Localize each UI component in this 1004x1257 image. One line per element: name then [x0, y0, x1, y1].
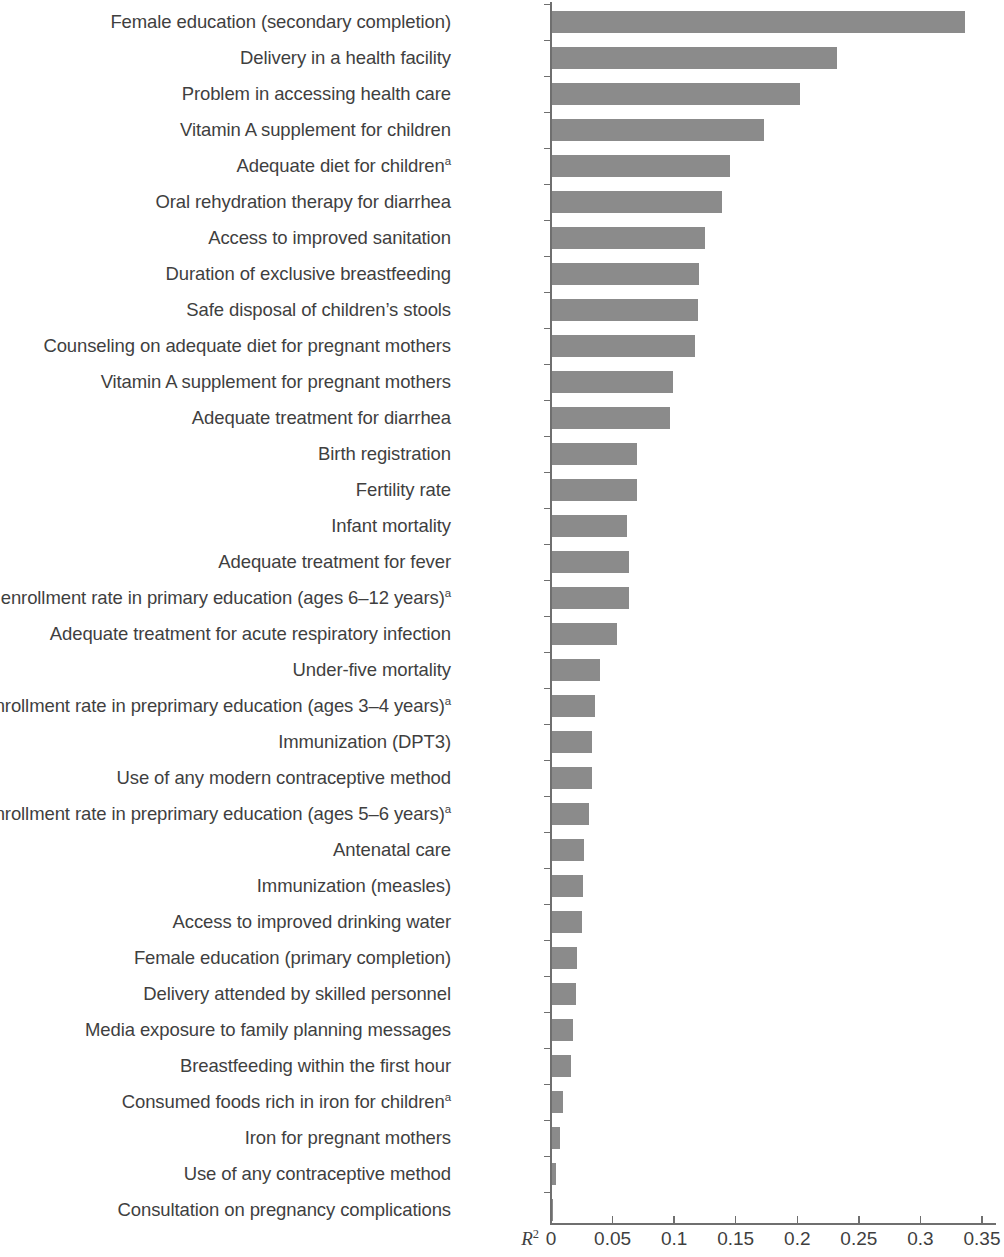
bar: [551, 551, 629, 573]
bar-track: [551, 911, 582, 933]
bar: [551, 623, 617, 645]
footnote-marker: a: [445, 155, 451, 167]
bar: [551, 947, 577, 969]
bar: [551, 983, 576, 1005]
bar-track: [551, 299, 698, 321]
bar-track: [551, 443, 637, 465]
x-axis-tick-label: 0.2: [784, 1228, 810, 1250]
footnote-marker: a: [445, 695, 451, 707]
bar-row: Adequate diet for childrena: [0, 148, 1004, 184]
bar-row: Use of any modern contraceptive method: [0, 760, 1004, 796]
bar-track: [551, 695, 595, 717]
footnote-marker: a: [445, 803, 451, 815]
bar: [551, 803, 589, 825]
bar-row: Under-five mortality: [0, 652, 1004, 688]
x-axis-tick-label: 0: [546, 1228, 557, 1250]
bar: [551, 263, 699, 285]
bar-row: Net enrollment rate in preprimary educat…: [0, 796, 1004, 832]
bar: [551, 299, 698, 321]
bar-rows-container: Female education (secondary completion)D…: [0, 4, 1004, 1228]
bar-track: [551, 11, 965, 33]
x-axis-title: R2: [521, 1228, 539, 1250]
bar-category-label: Net enrollment rate in preprimary educat…: [0, 688, 451, 724]
bar-category-label: Delivery in a health facility: [240, 40, 451, 76]
bar-row: Access to improved drinking water: [0, 904, 1004, 940]
bar-category-label: Media exposure to family planning messag…: [85, 1012, 451, 1048]
bar: [551, 371, 673, 393]
bar-track: [551, 83, 800, 105]
bar: [551, 1019, 573, 1041]
bar-track: [551, 371, 673, 393]
bar-category-label: Access to improved drinking water: [173, 904, 451, 940]
bar-track: [551, 947, 577, 969]
bar-track: [551, 1019, 573, 1041]
x-axis-tick-label: 0.15: [717, 1228, 754, 1250]
bar-category-label: Vitamin A supplement for pregnant mother…: [101, 364, 451, 400]
bar: [551, 1163, 556, 1185]
x-axis-tick-label: 0.3: [907, 1228, 933, 1250]
bar-row: Problem in accessing health care: [0, 76, 1004, 112]
bar-category-label: Net enrollment rate in primary education…: [0, 580, 451, 616]
bar-row: Immunization (measles): [0, 868, 1004, 904]
bar-row: Fertility rate: [0, 472, 1004, 508]
bar-track: [551, 47, 837, 69]
bar-track: [551, 119, 764, 141]
bar-category-label: Consumed foods rich in iron for children…: [122, 1084, 451, 1120]
bar: [551, 875, 583, 897]
bar-category-label: Infant mortality: [331, 508, 451, 544]
bar-category-label: Female education (primary completion): [134, 940, 451, 976]
bar: [551, 11, 965, 33]
bar-track: [551, 155, 730, 177]
x-axis-tick: [673, 1216, 675, 1224]
bar-row: Duration of exclusive breastfeeding: [0, 256, 1004, 292]
bar-category-label: Duration of exclusive breastfeeding: [166, 256, 451, 292]
bar-track: [551, 659, 600, 681]
x-axis-tick-label: 0.25: [840, 1228, 877, 1250]
x-axis-tick: [981, 1216, 983, 1224]
bar-track: [551, 983, 576, 1005]
bar-row: Immunization (DPT3): [0, 724, 1004, 760]
bar: [551, 731, 592, 753]
x-axis-tick: [797, 1216, 799, 1224]
bar-row: Female education (secondary completion): [0, 4, 1004, 40]
bar-track: [551, 875, 583, 897]
x-axis-tick-label: 0.35: [964, 1228, 1001, 1250]
bar-row: Female education (primary completion): [0, 940, 1004, 976]
x-axis-tick: [735, 1216, 737, 1224]
bar-track: [551, 227, 705, 249]
bar-row: Access to improved sanitation: [0, 220, 1004, 256]
bar-category-label: Net enrollment rate in preprimary educat…: [0, 796, 451, 832]
bar: [551, 335, 695, 357]
bar-row: Safe disposal of children’s stools: [0, 292, 1004, 328]
bar-category-label: Problem in accessing health care: [182, 76, 451, 112]
bar-row: Breastfeeding within the first hour: [0, 1048, 1004, 1084]
bar: [551, 659, 600, 681]
bar-row: Adequate treatment for fever: [0, 544, 1004, 580]
x-axis-tick-label: 0.05: [594, 1228, 631, 1250]
footnote-marker: a: [445, 1091, 451, 1103]
bar-track: [551, 191, 722, 213]
x-axis-tick: [858, 1216, 860, 1224]
bar-track: [551, 263, 699, 285]
bar: [551, 227, 705, 249]
x-axis-title-base: R: [521, 1228, 533, 1249]
bar-track: [551, 335, 695, 357]
bar-track: [551, 587, 629, 609]
bar-row: Delivery attended by skilled personnel: [0, 976, 1004, 1012]
bar-row: Net enrollment rate in primary education…: [0, 580, 1004, 616]
bar-category-label: Vitamin A supplement for children: [180, 112, 451, 148]
bar-row: Adequate treatment for acute respiratory…: [0, 616, 1004, 652]
bar: [551, 155, 730, 177]
bar-track: [551, 623, 617, 645]
bar-category-label: Fertility rate: [356, 472, 451, 508]
bar: [551, 767, 592, 789]
bar-track: [551, 1055, 571, 1077]
bar-category-label: Adequate treatment for diarrhea: [192, 400, 451, 436]
bar-track: [551, 1127, 560, 1149]
bar: [551, 1055, 571, 1077]
bar: [551, 515, 627, 537]
x-axis-tick: [920, 1216, 922, 1224]
bar: [551, 695, 595, 717]
bar-row: Iron for pregnant mothers: [0, 1120, 1004, 1156]
bar-category-label: Adequate diet for childrena: [236, 148, 451, 184]
